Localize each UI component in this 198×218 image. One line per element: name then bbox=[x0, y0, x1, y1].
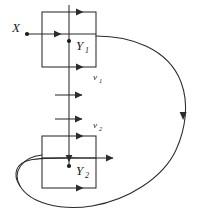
arrow-lower-box-top-icon bbox=[76, 132, 84, 139]
x-dot bbox=[25, 32, 29, 36]
label-nu1-subscript: 1 bbox=[99, 77, 102, 84]
arrow-transversal-1-icon bbox=[75, 91, 83, 98]
arrow-lower-box-exit-icon bbox=[106, 154, 114, 161]
label-nu2-subscript: 2 bbox=[99, 125, 103, 132]
flow-diagram-svg: X Y 1 Y 2 ν 1 ν 2 bbox=[0, 0, 198, 218]
label-nu1: ν bbox=[93, 72, 97, 82]
arrow-x-into-box-icon bbox=[54, 30, 62, 37]
arrow-upper-box-bottom-icon bbox=[76, 63, 84, 70]
y1-dot bbox=[67, 39, 71, 43]
label-y2-subscript: 2 bbox=[85, 171, 89, 180]
label-nu2: ν bbox=[93, 120, 97, 130]
arrow-lower-box-bottom-icon bbox=[76, 184, 84, 191]
arrow-transversal-2-icon bbox=[75, 115, 83, 122]
return-curve-left-hook bbox=[16, 158, 96, 186]
y2-dot bbox=[67, 164, 71, 168]
diagram-canvas: X Y 1 Y 2 ν 1 ν 2 bbox=[0, 0, 198, 218]
label-x: X bbox=[11, 20, 21, 35]
label-y2: Y bbox=[76, 163, 85, 178]
label-y1-subscript: 1 bbox=[85, 46, 89, 55]
label-y1: Y bbox=[76, 38, 85, 53]
arrow-upper-box-top-icon bbox=[76, 8, 84, 15]
